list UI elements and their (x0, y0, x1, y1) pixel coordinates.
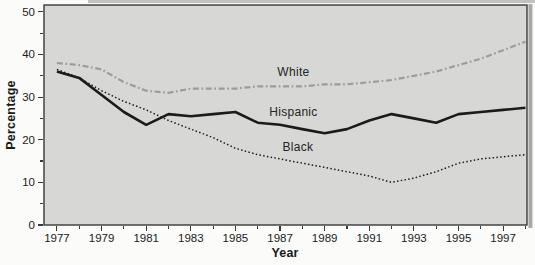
y-tick-label: 0 (29, 219, 35, 231)
x-tick-label: 1981 (133, 232, 159, 244)
x-tick-label: 1991 (356, 232, 382, 244)
y-tick-label: 30 (22, 91, 35, 103)
x-tick-label: 1979 (89, 232, 115, 244)
y-tick-label: 10 (22, 176, 35, 188)
scan-artifact-top (88, 0, 535, 3)
x-tick-label: 1997 (490, 232, 516, 244)
x-tick-label: 1995 (446, 232, 472, 244)
x-axis-tick-labels: 1977197919811983198519871989199119931995… (44, 232, 516, 244)
y-axis-ticks (38, 12, 43, 225)
x-tick-label: 1989 (312, 232, 338, 244)
chart-canvas: 1977197919811983198519871989199119931995… (0, 0, 535, 265)
x-tick-label: 1985 (223, 232, 249, 244)
x-tick-label: 1983 (178, 232, 204, 244)
x-axis-ticks (57, 226, 525, 231)
scanned-line-chart-figure: 1977197919811983198519871989199119931995… (0, 0, 535, 265)
y-axis-title: Percentage (4, 80, 18, 149)
x-tick-label: 1993 (401, 232, 427, 244)
x-tick-label: 1987 (267, 232, 293, 244)
x-axis-title: Year (271, 246, 298, 260)
y-tick-label: 50 (22, 6, 35, 18)
x-tick-label: 1977 (44, 232, 70, 244)
y-tick-label: 40 (22, 48, 35, 60)
y-tick-label: 20 (22, 134, 35, 146)
series-label-hispanic: Hispanic (269, 105, 317, 119)
series-label-white: White (277, 65, 309, 79)
y-axis-tick-labels: 01020304050 (22, 6, 35, 231)
scan-artifact-right (528, 4, 532, 228)
series-label-black: Black (282, 140, 314, 154)
